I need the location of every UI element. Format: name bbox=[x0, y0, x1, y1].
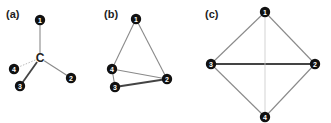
panel-c-edge-2-4 bbox=[265, 64, 315, 117]
node-number: 2 bbox=[313, 61, 317, 68]
node-number: 3 bbox=[209, 61, 213, 68]
panel-a-center-atom: C bbox=[36, 51, 45, 65]
node-number: 1 bbox=[263, 9, 267, 16]
panel-b-edge-4-2 bbox=[112, 69, 167, 79]
node-number: 4 bbox=[110, 66, 114, 73]
panel-b-node-4: 4 bbox=[107, 64, 117, 74]
panel-b-node-3: 3 bbox=[110, 82, 120, 92]
node-number: 1 bbox=[134, 16, 138, 23]
panel-c-label: (c) bbox=[205, 8, 219, 20]
panel-c-node-1: 1 bbox=[260, 7, 270, 17]
node-number: 4 bbox=[12, 66, 16, 73]
node-number: 3 bbox=[113, 84, 117, 91]
panel-a-label: (a) bbox=[6, 8, 20, 20]
panel-c-node-4: 4 bbox=[260, 112, 270, 122]
panel-a-node-1: 1 bbox=[35, 15, 45, 25]
panel-c-node-2: 2 bbox=[310, 59, 320, 69]
panel-c-edge-1-2 bbox=[265, 12, 315, 64]
edges-layer bbox=[14, 12, 315, 117]
node-number: 1 bbox=[38, 17, 42, 24]
node-number: 3 bbox=[18, 83, 22, 90]
panel-b-edge-1-4 bbox=[112, 19, 136, 69]
panel-b-label: (b) bbox=[104, 8, 118, 20]
node-number: 2 bbox=[165, 76, 169, 83]
node-number: 4 bbox=[263, 114, 267, 121]
panel-a-node-4: 4 bbox=[9, 64, 19, 74]
panel-c-node-3: 3 bbox=[206, 59, 216, 69]
node-number: 2 bbox=[69, 75, 73, 82]
panel-b-edge-3-2 bbox=[115, 79, 167, 87]
panel-c-edge-3-4 bbox=[211, 64, 265, 117]
molecular-geometry-diagram: C123412341234 (a) (b) (c) bbox=[0, 0, 331, 123]
panel-a-node-2: 2 bbox=[66, 73, 76, 83]
panel-b-edge-1-2 bbox=[136, 19, 167, 79]
panel-b-node-1: 1 bbox=[131, 14, 141, 24]
panel-c-edge-1-3 bbox=[211, 12, 265, 64]
panel-b-node-2: 2 bbox=[162, 74, 172, 84]
panel-a-node-3: 3 bbox=[15, 81, 25, 91]
